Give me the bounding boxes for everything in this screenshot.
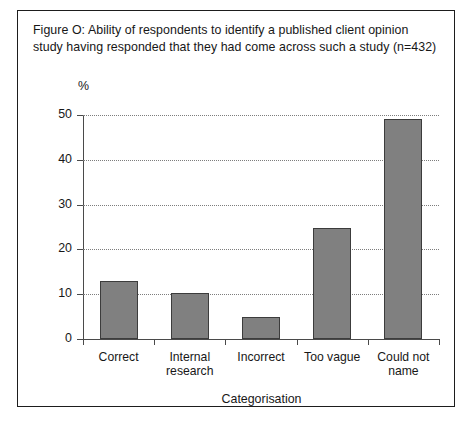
y-axis-tick-label-wrap: 0 [28,331,72,345]
x-axis-title: Categorisation [83,392,440,406]
x-axis-category-label: Internalresearch [154,350,225,378]
x-axis-tick [368,339,369,345]
bar [313,228,351,339]
x-axis-category-label: Too vague [297,350,368,364]
x-axis-category-label: Correct [83,350,154,364]
x-axis-category-label-line: research [154,364,225,378]
bar [384,119,422,339]
x-axis-category-label-line: Too vague [297,350,368,364]
y-axis-tick-label: 50 [32,107,72,121]
y-axis-tick [77,294,83,295]
x-axis-category-label-line: name [368,364,439,378]
x-axis-line [83,339,440,340]
y-axis-tick-label-wrap: 50 [28,107,72,121]
x-axis-category-label-line: Could not [368,350,439,364]
gridline [83,115,439,116]
bar [171,293,209,339]
y-axis-tick-label: 30 [32,197,72,211]
x-axis-tick [439,339,440,345]
x-axis-tick [154,339,155,345]
x-axis-category-label-line: Internal [154,350,225,364]
x-axis-tick [225,339,226,345]
y-axis-tick-label-wrap: 20 [28,241,72,255]
y-axis-tick-label-wrap: 10 [28,286,72,300]
x-axis-category-label-line: Correct [83,350,154,364]
y-axis-tick [77,205,83,206]
plot-area: 01020304050 CorrectInternalresearchIncor… [18,11,456,408]
x-axis-category-label-line: Incorrect [225,350,296,364]
y-axis-tick-label: 10 [32,286,72,300]
x-axis-tick [83,339,84,345]
x-axis-category-label: Could notname [368,350,439,378]
figure-border-frame: Figure O: Ability of respondents to iden… [17,10,455,407]
y-axis-tick-label-wrap: 40 [28,152,72,166]
x-axis-category-label: Incorrect [225,350,296,364]
y-axis-tick-label: 20 [32,241,72,255]
y-axis-tick [77,115,83,116]
x-axis-tick [297,339,298,345]
y-axis-tick-label-wrap: 30 [28,197,72,211]
bar [242,317,280,339]
y-axis-line [83,115,84,340]
y-axis-tick [77,249,83,250]
y-axis-tick-label: 0 [32,331,72,345]
y-axis-tick-label: 40 [32,152,72,166]
y-axis-tick [77,160,83,161]
bar [100,281,138,339]
figure-root: Figure O: Ability of respondents to iden… [0,0,473,428]
